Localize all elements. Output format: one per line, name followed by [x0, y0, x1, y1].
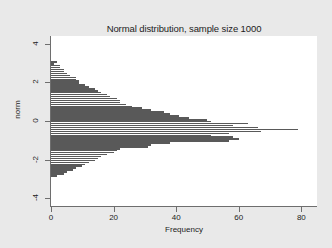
y-axis-title: norm [13, 95, 22, 125]
x-axis-line [51, 206, 317, 207]
histogram-figure: Normal distribution, sample size 1000 42… [0, 0, 332, 248]
y-axis-tick-label: 4 [31, 36, 40, 50]
y-axis-tick [45, 82, 50, 83]
x-axis-tick-label: 80 [289, 213, 313, 222]
x-axis-tick [51, 207, 52, 212]
y-axis-tick [45, 121, 50, 122]
plot-area [51, 36, 317, 206]
histogram-bar [51, 175, 57, 176]
y-axis-tick-label: -2 [31, 152, 40, 166]
x-axis-tick-label: 60 [227, 213, 251, 222]
y-axis-tick-label: 0 [31, 114, 40, 128]
y-axis-tick [45, 44, 50, 45]
bars-layer [51, 36, 317, 206]
y-axis-tick-label: -4 [31, 191, 40, 205]
x-axis-tick-label: 40 [164, 213, 188, 222]
y-axis-tick-label: 2 [31, 75, 40, 89]
y-axis-tick [45, 160, 50, 161]
x-axis-title: Frequency [51, 225, 317, 234]
x-axis-tick-label: 20 [102, 213, 126, 222]
chart-title: Normal distribution, sample size 1000 [51, 23, 317, 34]
y-axis-tick [45, 198, 50, 199]
x-axis-tick [239, 207, 240, 212]
y-axis-line [50, 36, 51, 207]
x-axis-tick-label: 0 [39, 213, 63, 222]
x-axis-tick [114, 207, 115, 212]
x-axis-tick [301, 207, 302, 212]
x-axis-tick [176, 207, 177, 212]
